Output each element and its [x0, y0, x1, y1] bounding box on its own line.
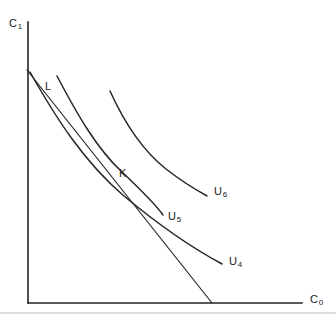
- x-axis-label: C0: [310, 294, 323, 305]
- x-axis-label-text: C: [310, 293, 318, 305]
- curve-label-u6-subscript: 6: [223, 190, 228, 199]
- y-axis-label-text: C: [9, 17, 17, 29]
- point-label-l: L: [45, 81, 51, 92]
- x-axis-label-subscript: 0: [319, 298, 324, 307]
- curve-label-u5: U5: [168, 211, 181, 222]
- y-axis-label: C1: [9, 18, 22, 29]
- curve-label-u6: U6: [214, 186, 227, 197]
- indifference-curve-figure: C1 C0 U6 U5 U4 K L: [0, 0, 336, 322]
- indifference-curve-u5: [57, 76, 163, 215]
- figure-canvas: [0, 0, 336, 322]
- indifference-curve-u6: [110, 91, 207, 196]
- y-axis-label-subscript: 1: [18, 22, 23, 31]
- curve-label-u4-subscript: 4: [238, 260, 243, 269]
- point-label-k: K: [119, 168, 127, 179]
- curve-label-u5-text: U: [168, 210, 176, 222]
- curve-label-u5-subscript: 5: [177, 215, 182, 224]
- curve-label-u4: U4: [229, 256, 242, 267]
- budget-line: [27, 70, 212, 303]
- curve-label-u6-text: U: [214, 185, 222, 197]
- curve-label-u4-text: U: [229, 255, 237, 267]
